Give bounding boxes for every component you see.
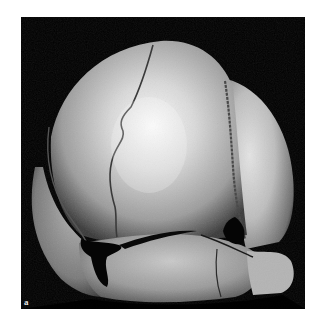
skull-rendering — [21, 17, 305, 309]
panel-label: a — [24, 298, 29, 307]
specular-highlight — [111, 97, 187, 193]
ct-skull-figure: a — [21, 17, 305, 309]
